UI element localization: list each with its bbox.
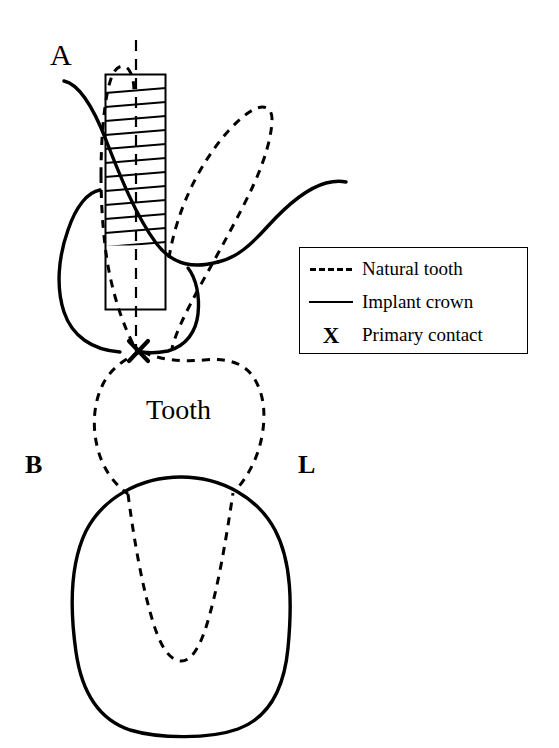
dental-implant-diagram: A B L Tooth Natural tooth Implant crown … — [0, 0, 559, 748]
x-mark-glyph: X — [323, 324, 340, 347]
natural-tooth-root — [128, 493, 233, 661]
diagram-canvas — [0, 0, 559, 748]
buccal-label: B — [25, 452, 42, 478]
legend-label-primary-contact: Primary contact — [362, 324, 483, 346]
implant-crown-buccal-contour — [59, 190, 120, 352]
alveolar-bone-outline — [72, 477, 290, 737]
legend-item-implant-crown: Implant crown — [300, 285, 527, 319]
abutment-hatching — [104, 88, 167, 247]
legend-label-natural-tooth: Natural tooth — [362, 258, 463, 280]
legend: Natural tooth Implant crown X Primary co… — [299, 247, 528, 354]
natural-tooth-lingual-cusp — [169, 107, 272, 348]
dashed-line-icon — [300, 268, 362, 271]
legend-item-natural-tooth: Natural tooth — [300, 252, 527, 286]
x-mark-icon: X — [300, 324, 362, 347]
solid-line-icon — [300, 301, 362, 303]
tooth-label: Tooth — [146, 396, 211, 424]
legend-item-primary-contact: X Primary contact — [300, 318, 527, 352]
implant-crown-buccal-incline — [64, 81, 218, 265]
panel-label-a: A — [50, 40, 72, 70]
natural-tooth-crown-buccal — [94, 352, 140, 494]
lingual-label: L — [298, 452, 315, 478]
legend-label-implant-crown: Implant crown — [362, 291, 473, 313]
